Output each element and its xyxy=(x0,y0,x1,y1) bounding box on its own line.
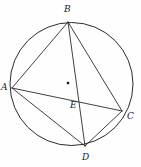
vertex-label-c: C xyxy=(127,112,134,121)
chord-AD xyxy=(12,88,85,146)
geometry-canvas xyxy=(0,0,141,167)
vertex-label-d: D xyxy=(82,153,89,162)
chord-CD xyxy=(85,111,122,146)
center-dot xyxy=(67,82,69,84)
chord-BD xyxy=(68,22,85,146)
chord-AC xyxy=(12,88,122,111)
geometry-figure: A B C D E xyxy=(0,0,141,167)
vertex-label-b: B xyxy=(64,5,71,14)
chord-AB xyxy=(12,22,68,88)
vertex-label-a: A xyxy=(1,83,8,92)
circumscribed-circle xyxy=(10,23,133,146)
chord-BC xyxy=(68,22,122,111)
vertex-label-e: E xyxy=(70,101,77,110)
